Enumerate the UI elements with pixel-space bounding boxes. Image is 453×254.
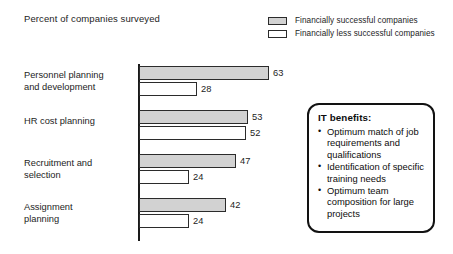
legend-swatch-filled (268, 17, 287, 25)
legend-swatch-empty (268, 30, 287, 38)
bar-value-successful: 53 (252, 110, 262, 124)
list-item: Optimum match of job requirements and qu… (318, 126, 427, 160)
bar-successful (139, 154, 236, 168)
legend-item-successful: Financially successful companies (268, 15, 435, 26)
category-label-line2: and development (24, 82, 95, 92)
category-label-hr-cost-planning: HR cost planning (24, 116, 134, 128)
bar-less-successful (139, 82, 197, 96)
bar-value-successful: 47 (240, 154, 250, 168)
category-label-recruitment-selection: Recruitment and selection (24, 158, 134, 181)
it-benefits-title: IT benefits: (318, 112, 427, 123)
chart-figure: Percent of companies surveyed Financiall… (0, 0, 453, 254)
legend-label-successful: Financially successful companies (295, 16, 418, 25)
category-label-assignment-planning: Assignment planning (24, 202, 134, 225)
bar-value-less-successful: 24 (193, 170, 203, 184)
category-label-personnel-planning: Personnel planning and development (24, 70, 134, 93)
category-label-line1: Recruitment and (24, 158, 92, 168)
category-label-line1: Assignment (24, 202, 73, 212)
legend-item-less-successful: Financially less successful companies (268, 28, 435, 39)
bar-successful (139, 110, 248, 124)
bar-value-less-successful: 24 (193, 214, 203, 228)
list-item: Identification of specific training need… (318, 161, 427, 184)
legend-label-less-successful: Financially less successful companies (295, 29, 435, 38)
bar-value-successful: 42 (230, 198, 240, 212)
category-label-line2: selection (24, 170, 61, 180)
chart-legend: Financially successful companies Financi… (268, 15, 435, 41)
category-label-line1: HR cost planning (24, 116, 95, 126)
category-label-line2: planning (24, 214, 59, 224)
plot-area: Personnel planning and development 63 28… (0, 60, 300, 245)
bar-less-successful (139, 170, 189, 184)
bar-value-successful: 63 (273, 66, 283, 80)
bar-value-less-successful: 52 (250, 126, 260, 140)
it-benefits-callout: IT benefits: Optimum match of job requir… (307, 103, 435, 233)
bar-successful (139, 198, 226, 212)
bar-successful (139, 66, 269, 80)
list-item: Optimum team composition for large proje… (318, 185, 427, 219)
bar-value-less-successful: 28 (201, 82, 211, 96)
category-label-line1: Personnel planning (24, 70, 104, 80)
bar-less-successful (139, 214, 189, 228)
it-benefits-list: Optimum match of job requirements and qu… (318, 126, 427, 219)
page-title: Percent of companies surveyed (24, 13, 160, 24)
bar-less-successful (139, 126, 246, 140)
